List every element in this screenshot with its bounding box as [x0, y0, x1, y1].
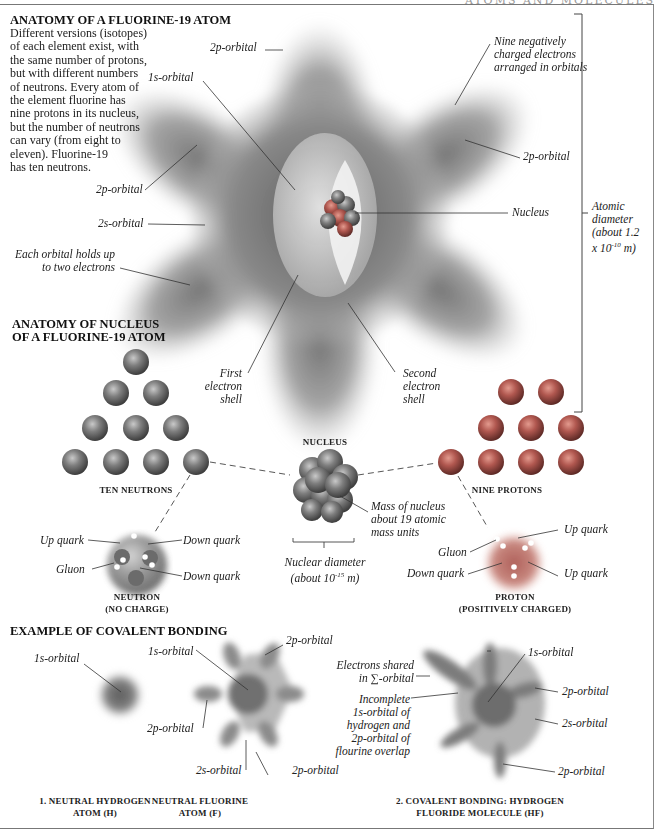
label-nucleus: Nucleus	[512, 206, 549, 219]
nucleus-cluster	[293, 449, 358, 523]
neutron-caption: NEUTRON (NO CHARGE)	[97, 591, 177, 615]
fluorine-label-2s: 2s-orbital	[196, 764, 241, 777]
molecule-caption: 2. COVALENT BONDING: HYDROGEN FLUORIDE M…	[390, 795, 570, 819]
fluorine-orbital	[194, 640, 304, 750]
molecule-label-2p-bottom: 2p-orbital	[558, 765, 605, 778]
neutron-detail	[88, 524, 182, 595]
proton-caption: PROTON (POSITIVELY CHARGED)	[455, 591, 575, 615]
label-mass-of-nucleus: Mass of nucleus about 19 atomic mass uni…	[371, 500, 446, 539]
neutrons-caption: TEN NEUTRONS	[76, 484, 196, 496]
proton-spheres	[438, 379, 584, 475]
protons-caption: NINE PROTONS	[452, 484, 562, 496]
label-2p-orbital-top: 2p-orbital	[210, 41, 257, 54]
fluorine-label-2p-left: 2p-orbital	[147, 722, 194, 735]
hydrogen-caption: 1. NEUTRAL HYDROGEN ATOM (H)	[35, 795, 155, 819]
molecule-label-shared: Electrons shared in ∑-orbital	[300, 659, 414, 685]
molecule-label-2s: 2s-orbital	[562, 717, 607, 730]
label-electrons: Nine negatively charged electrons arrang…	[494, 35, 587, 74]
label-2p-orbital-right: 2p-orbital	[523, 150, 570, 163]
proton-label-up-quark-1: Up quark	[564, 523, 608, 536]
label-first-shell: First electron shell	[198, 367, 242, 406]
molecule-label-2p-right: 2p-orbital	[562, 685, 609, 698]
bonding-section-title: EXAMPLE OF COVALENT BONDING	[10, 625, 228, 638]
fluorine-label-2p-bottom: 2p-orbital	[292, 764, 339, 777]
hydrogen-label-1s: 1s-orbital	[34, 652, 79, 665]
proton-detail	[468, 530, 558, 593]
label-nuclear-diameter: Nuclear diameter (about 10-15 m)	[282, 556, 368, 585]
diagram-page: ATOMS AND MOLECULES	[0, 0, 663, 831]
neutron-spheres	[62, 349, 209, 475]
label-atomic-diameter: Atomic diameter (about 1.2 x 10-10 m)	[592, 200, 639, 255]
neutron-label-up-quark: Up quark	[40, 534, 84, 547]
nucleus-section-title: ANATOMY OF NUCLEUS OF A FLUORINE-19 ATOM	[12, 318, 166, 344]
neutron-label-gluon: Gluon	[56, 563, 85, 576]
label-1s-orbital: 1s-orbital	[148, 71, 193, 84]
molecule-label-1s: 1s-orbital	[528, 646, 573, 659]
fluorine-label-1s: 1s-orbital	[148, 645, 193, 658]
fluorine-caption: NEUTRAL FLUORINE ATOM (F)	[150, 795, 250, 819]
proton-label-up-quark-2: Up quark	[564, 567, 608, 580]
molecule-label-incomplete: Incomplete 1s-orbital of hydrogen and 2p…	[300, 693, 410, 758]
label-second-shell: Second electron shell	[403, 367, 440, 406]
fluorine-label-2p-top: 2p-orbital	[286, 634, 333, 647]
label-each-orbital: Each orbital holds up to two electrons	[13, 248, 115, 274]
atom-description: Different versions (isotopes) of each el…	[10, 27, 147, 174]
label-2s-orbital: 2s-orbital	[98, 217, 143, 230]
proton-label-gluon: Gluon	[438, 546, 467, 559]
proton-label-down-quark: Down quark	[407, 567, 464, 580]
neutron-label-down-quark-2: Down quark	[183, 570, 240, 583]
neutron-label-down-quark-1: Down quark	[183, 534, 240, 547]
hf-orbital	[419, 643, 545, 778]
nucleus-caption: NUCLEUS	[290, 436, 360, 448]
label-2p-orbital-left: 2p-orbital	[96, 183, 143, 196]
